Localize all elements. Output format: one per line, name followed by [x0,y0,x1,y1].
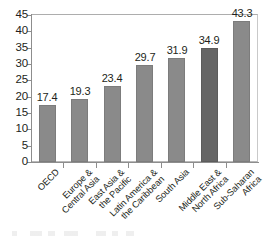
bar-value-label-5: 34.9 [189,35,229,46]
bar-value-label-1: 19.3 [60,86,100,97]
y-axis-line [31,14,32,163]
bar-5 [201,48,218,162]
y-tick-label-0: 0 [0,156,28,168]
bar-3 [136,65,153,162]
bar-value-label-4: 31.9 [157,45,197,56]
x-tick-4 [161,163,162,168]
x-tick-6 [226,163,227,168]
y-tick-label-45: 45 [0,9,28,21]
clipped-caption-fragment [8,231,158,236]
bar-6 [233,21,250,162]
bar-2 [104,86,121,162]
y-tick-label-30: 30 [0,58,28,70]
y-tick-label-35: 35 [0,42,28,54]
bar-4 [168,58,185,162]
x-axis-line [31,162,259,163]
bar-value-label-6: 43.3 [222,8,262,19]
y-tick-label-15: 15 [0,107,28,119]
bar-0 [39,105,56,162]
bar-value-label-2: 23.4 [92,73,132,84]
y-tick-label-25: 25 [0,74,28,86]
x-tick-1 [63,163,64,168]
x-tick-2 [96,163,97,168]
y-tick-label-5: 5 [0,140,28,152]
y-tick-label-40: 40 [0,25,28,37]
bar-chart: 051015202530354045 17.419.323.429.731.93… [0,0,270,241]
x-tick-5 [193,163,194,168]
y-tick-label-20: 20 [0,91,28,103]
y-tick-label-10: 10 [0,123,28,135]
x-tick-3 [128,163,129,168]
bar-1 [71,99,88,162]
